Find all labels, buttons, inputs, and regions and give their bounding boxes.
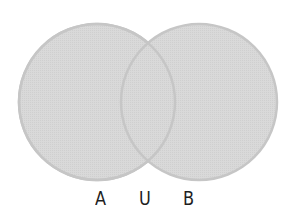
- set-b-circle: [121, 24, 277, 180]
- venn-diagram: [0, 0, 291, 214]
- set-a-label: A: [95, 187, 106, 209]
- union-operator: U: [139, 187, 151, 209]
- set-b-label: B: [183, 187, 194, 209]
